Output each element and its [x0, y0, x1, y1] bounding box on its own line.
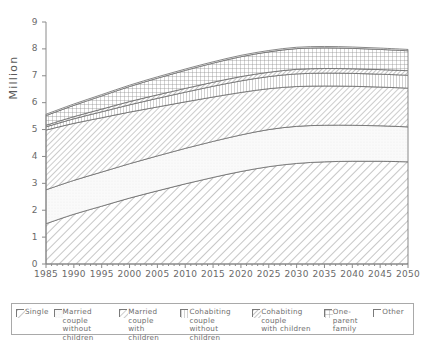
chart-legend: SingleMarried couple without childrenMar… [11, 303, 414, 335]
legend-swatch-cross-hatch-icon [324, 309, 332, 317]
legend-entry-one-parent[interactable]: One-parent family [324, 308, 369, 334]
legend-label: Cohabiting couple with children [261, 308, 319, 334]
legend-entry-married-couple[interactable]: Married couple with children [119, 308, 175, 342]
legend-swatch-narrow-diagonal-icon [252, 309, 260, 317]
legend-swatch-vertical-hatch-icon [180, 309, 188, 317]
legend-entry-cohabiting-couple[interactable]: Cohabiting couple with children [252, 308, 319, 334]
area-bands [46, 46, 408, 264]
legend-entry-single[interactable]: Single [16, 308, 49, 317]
legend-swatch-diagonal-hatch-dense-icon [119, 309, 127, 317]
legend-entry-married-couple[interactable]: Married couple without children [54, 308, 115, 342]
plot-area: Million 0123456789 198519901995200020052… [0, 0, 427, 292]
legend-swatch-blank-icon [373, 309, 381, 317]
legend-entry-other[interactable]: Other [373, 308, 404, 317]
legend-label: Married couple without children [63, 308, 115, 342]
legend-label: Married couple with children [128, 308, 175, 342]
chart-page: Million 0123456789 198519901995200020052… [0, 0, 427, 345]
legend-entry-cohabiting-couple[interactable]: Cohabiting couple without children [180, 308, 247, 342]
legend-label: Single [25, 308, 49, 317]
legend-label: Cohabiting couple without children [189, 308, 247, 342]
legend-swatch-diagonal-hatch-icon [16, 309, 24, 317]
stacked-area-chart [0, 0, 427, 292]
legend-label: One-parent family [333, 308, 369, 334]
legend-entries: SingleMarried couple without childrenMar… [16, 308, 409, 342]
legend-swatch-fine-dots-icon [54, 309, 62, 317]
legend-label: Other [382, 308, 404, 317]
